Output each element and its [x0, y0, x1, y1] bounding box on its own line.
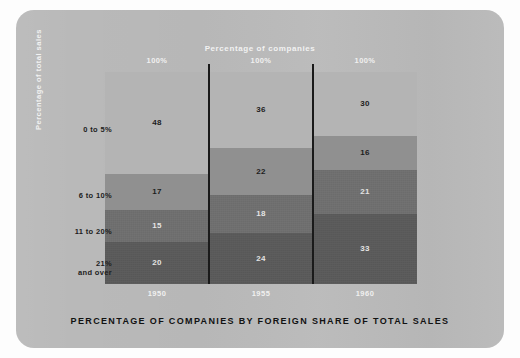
band-label-6-to-10: 6 to 10% — [32, 191, 112, 200]
x-axis-label-1950: 1950 — [105, 289, 209, 298]
chart-caption: PERCENTAGE OF COMPANIES BY FOREIGN SHARE… — [16, 316, 504, 326]
segment-value: 48 — [152, 119, 162, 127]
bar-segment-1955-11-to-20[interactable]: 18 — [209, 195, 313, 233]
bar-segment-1960-6-to-10[interactable]: 16 — [313, 136, 417, 170]
column-divider-1 — [208, 64, 210, 284]
segment-value: 18 — [256, 210, 266, 218]
segment-value: 36 — [256, 106, 266, 114]
band-label-0-to-5: 0 to 5% — [32, 125, 112, 134]
y-axis-title: Percentage of total sales — [34, 10, 43, 130]
bar-segment-1960-0-to-5[interactable]: 30 — [313, 72, 417, 136]
band-label-text: 0 to 5% — [83, 125, 112, 134]
segment-value: 20 — [152, 259, 162, 267]
bar-segment-1950-6-to-10[interactable]: 17 — [105, 174, 209, 210]
segment-value: 33 — [360, 245, 370, 253]
column-total-1960: 100% — [313, 56, 417, 65]
segment-value: 22 — [256, 168, 266, 176]
bar-column-1960[interactable]: 30 16 21 33 — [313, 72, 417, 284]
band-label-text: 11 to 20% — [75, 227, 112, 236]
bar-segment-1955-21-and-over[interactable]: 24 — [209, 233, 313, 284]
segment-value: 17 — [152, 188, 162, 196]
column-divider-2 — [312, 64, 314, 284]
bar-segment-1955-6-to-10[interactable]: 22 — [209, 148, 313, 195]
segment-value: 24 — [256, 255, 266, 263]
band-label-text-line1: 21% — [96, 259, 112, 268]
chart-top-title: Percentage of companies — [16, 44, 504, 53]
band-label-text-line2: and over — [78, 268, 112, 277]
column-total-1955: 100% — [209, 56, 313, 65]
segment-value: 21 — [360, 188, 370, 196]
bar-segment-1955-0-to-5[interactable]: 36 — [209, 72, 313, 148]
column-total-1950: 100% — [105, 56, 209, 65]
chart-page: Percentage of companies 100% 100% 100% P… — [0, 0, 520, 358]
band-label-text: 6 to 10% — [79, 191, 112, 200]
x-axis-label-1960: 1960 — [313, 289, 417, 298]
band-label-11-to-20: 11 to 20% — [32, 227, 112, 236]
segment-value: 30 — [360, 100, 370, 108]
segment-value: 15 — [152, 222, 162, 230]
bar-segment-1950-11-to-20[interactable]: 15 — [105, 210, 209, 242]
band-label-21-and-over: 21% and over — [32, 259, 112, 278]
bar-segment-1960-11-to-20[interactable]: 21 — [313, 170, 417, 215]
bar-column-1950[interactable]: 48 17 15 20 — [105, 72, 209, 284]
segment-value: 16 — [360, 149, 370, 157]
bar-segment-1960-21-and-over[interactable]: 33 — [313, 214, 417, 284]
x-axis-label-1955: 1955 — [209, 289, 313, 298]
bar-column-1955[interactable]: 36 22 18 24 — [209, 72, 313, 284]
plot-area: 48 17 15 20 36 22 — [105, 72, 417, 284]
chart-panel: Percentage of companies 100% 100% 100% P… — [16, 10, 504, 348]
bar-segment-1950-21-and-over[interactable]: 20 — [105, 242, 209, 284]
bar-segment-1950-0-to-5[interactable]: 48 — [105, 72, 209, 174]
